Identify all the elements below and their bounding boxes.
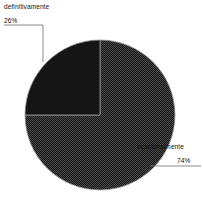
slice-label-definitivamente: definitivamente <box>4 3 49 11</box>
slice-percent-definitivamente: 26% <box>4 17 17 25</box>
slice-percent-ocasionalmente: 74% <box>177 157 190 165</box>
pie-slice-definitivamente[interactable] <box>25 40 100 115</box>
pie-chart: definitivamente 26% ocasionalmente 74% <box>0 0 203 200</box>
pie-chart-canvas <box>0 0 203 200</box>
slice-label-ocasionalmente: ocasionalmente <box>137 143 184 151</box>
leader-line-definitivamente <box>4 25 43 62</box>
